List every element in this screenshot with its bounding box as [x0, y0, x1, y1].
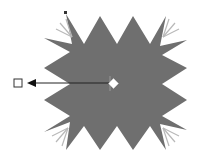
- top-resize-handle[interactable]: [64, 11, 67, 14]
- arrowhead-icon: [27, 79, 36, 87]
- diagram-canvas: [0, 0, 200, 164]
- target-box-handle[interactable]: [14, 79, 22, 87]
